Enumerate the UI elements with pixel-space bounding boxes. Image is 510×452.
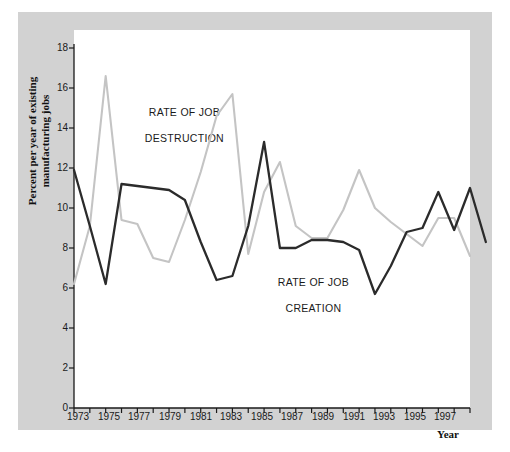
x-axis-ticks — [74, 408, 470, 413]
line-rate-of-job-destruction — [74, 76, 470, 284]
chart-vector-layer — [0, 0, 510, 452]
series-group — [74, 76, 486, 294]
y-axis-ticks — [69, 48, 74, 408]
chart-figure: Percent per year of existing manufacturi… — [0, 0, 510, 452]
axes-group — [69, 44, 470, 413]
